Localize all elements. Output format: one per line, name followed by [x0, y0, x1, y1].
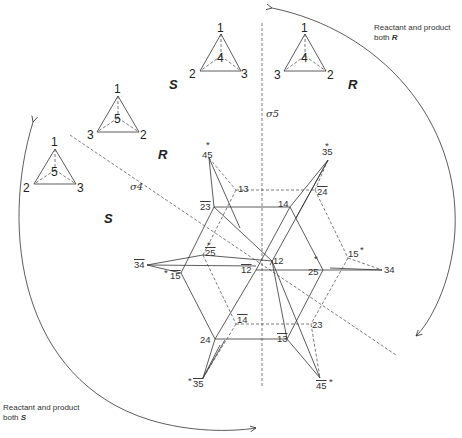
- tetrahedron-labels: 1 4 2 3 1 4 3 2 1 5 3 2 1 5 2 3: [23, 21, 334, 195]
- t3-apex: 1: [114, 82, 121, 96]
- node-24-bar: 24: [317, 186, 328, 197]
- star-marker: *: [188, 375, 192, 386]
- node-13-bar: 13: [277, 333, 288, 344]
- node-25-bar-star: 25: [205, 247, 216, 258]
- note-s-symbol: S: [21, 413, 26, 422]
- sigma5-label: σ5: [266, 108, 279, 119]
- arc-arrow-top-right: [272, 8, 455, 336]
- note-s-line1: Reactant and product: [3, 403, 80, 413]
- t3-left: 3: [87, 128, 94, 142]
- node-14: 14: [278, 198, 289, 209]
- node-12: 12: [273, 255, 284, 266]
- t1-right: 3: [241, 67, 248, 81]
- node-34: 34: [384, 264, 395, 275]
- region-label-s-left: S: [104, 211, 113, 226]
- sigma4-label: σ4: [130, 181, 143, 192]
- t1-left: 2: [189, 67, 196, 81]
- t2-left: 3: [274, 68, 281, 82]
- t4-apex: 1: [51, 135, 58, 149]
- node-45-star: 45: [202, 149, 213, 160]
- node-45-bar-star: 45: [316, 380, 327, 391]
- note-s-prefix: both: [3, 413, 21, 422]
- note-both-s: Reactant and product both S: [3, 403, 80, 423]
- node-35-bar-star: 35: [193, 378, 204, 389]
- note-r-line2: both R: [374, 33, 451, 43]
- node-13: 13: [238, 183, 249, 194]
- t4-center: 5: [51, 165, 58, 179]
- note-r-symbol: R: [392, 33, 398, 42]
- node-15-bar-star: 15: [170, 270, 181, 281]
- t3-center: 5: [114, 112, 121, 126]
- t2-right: 2: [327, 68, 334, 82]
- region-label-r-top: R: [348, 77, 358, 92]
- node-34-bar: 34: [134, 259, 145, 270]
- t2-center: 4: [301, 51, 308, 65]
- node-25-star: 25: [308, 266, 319, 277]
- star-marker: *: [360, 244, 364, 255]
- note-r-line1: Reactant and product: [374, 23, 451, 33]
- mirror-plane-sigma4: [70, 135, 396, 355]
- note-r-prefix: both: [374, 33, 392, 42]
- note-both-r: Reactant and product both R: [374, 23, 451, 43]
- t4-left: 2: [23, 181, 30, 195]
- t1-center: 4: [217, 51, 224, 65]
- region-label-s-top: S: [169, 77, 178, 92]
- node-23: 23: [312, 319, 323, 330]
- star-marker: *: [329, 376, 333, 387]
- t3-right: 2: [140, 128, 147, 142]
- star-marker: *: [164, 267, 168, 278]
- region-label-r-left: R: [158, 147, 168, 162]
- permutation-graph-diagram: * 45 * 35 13 24 23 14 * 25 34 * 15 12 12…: [0, 0, 462, 438]
- node-15-star: 15: [348, 248, 359, 259]
- t4-right: 3: [77, 181, 84, 195]
- note-s-line2: both S: [3, 413, 80, 423]
- t1-apex: 1: [217, 21, 224, 35]
- t2-apex: 1: [301, 21, 308, 35]
- node-14-bar: 14: [237, 314, 248, 325]
- node-23-bar: 23: [200, 201, 211, 212]
- star-marker: *: [314, 253, 318, 264]
- node-35-star: 35: [322, 146, 333, 157]
- node-12-bar: 12: [241, 264, 252, 275]
- graph-solid-edges: [147, 158, 382, 378]
- node-24: 24: [200, 334, 211, 345]
